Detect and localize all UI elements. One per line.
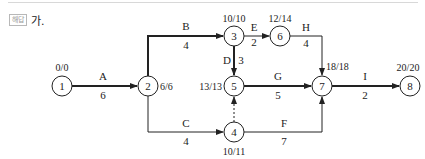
- activity-g-name: G: [274, 70, 282, 82]
- activity-d: D 3: [223, 46, 244, 75]
- node-4: 4 10/11: [223, 122, 245, 157]
- node-4-label: 4: [231, 126, 237, 138]
- activity-a: A 6: [72, 70, 137, 101]
- node-8-label: 8: [407, 80, 413, 92]
- node-6-label: 6: [277, 30, 283, 42]
- network-diagram: A 6 B 4 C 4 D 3 E 2 H 4 G 5 F 7: [0, 0, 425, 159]
- activity-e-name: E: [251, 21, 258, 33]
- activity-c-duration: 4: [183, 135, 189, 147]
- node-1-label: 1: [59, 80, 65, 92]
- activity-c-name: C: [182, 117, 189, 129]
- node-2-label: 2: [145, 80, 151, 92]
- activity-f-duration: 7: [281, 135, 287, 147]
- node-1: 1 0/0: [52, 62, 72, 96]
- activity-i-duration: 2: [362, 89, 368, 101]
- activity-g-duration: 5: [275, 89, 281, 101]
- node-3: 3 10/10: [223, 13, 246, 46]
- activity-b-name: B: [182, 20, 189, 32]
- activity-f-name: F: [281, 117, 287, 129]
- activity-f: F 7: [244, 97, 322, 147]
- node-2: 2 6/6: [138, 76, 173, 96]
- activity-a-name: A: [99, 70, 107, 82]
- activity-i-name: I: [363, 70, 367, 82]
- activity-h-duration: 4: [303, 37, 309, 49]
- activity-a-duration: 6: [100, 89, 106, 101]
- node-3-label: 3: [231, 30, 237, 42]
- node-7: 7 18/18: [312, 61, 349, 96]
- node-7-times: 18/18: [326, 61, 349, 72]
- node-5: 5 13/13: [199, 76, 244, 96]
- activity-e: E 2: [244, 21, 269, 48]
- activity-i: I 2: [332, 70, 399, 101]
- activity-d-duration: 3: [238, 54, 244, 66]
- activity-g: G 5: [244, 70, 311, 101]
- activity-e-duration: 2: [251, 36, 257, 48]
- node-3-times: 10/10: [223, 13, 246, 24]
- node-8: 8 20/20: [397, 62, 420, 96]
- activity-c: C 4: [148, 96, 223, 147]
- activity-h: H 4: [290, 21, 322, 75]
- node-2-times: 6/6: [160, 81, 173, 92]
- node-6: 6 12/14: [269, 13, 292, 46]
- node-7-label: 7: [319, 80, 325, 92]
- node-8-times: 20/20: [397, 62, 420, 73]
- node-6-times: 12/14: [269, 13, 292, 24]
- node-1-times: 0/0: [56, 62, 69, 73]
- activity-d-name: D: [223, 54, 231, 66]
- node-5-label: 5: [231, 80, 237, 92]
- activity-h-name: H: [302, 21, 310, 33]
- node-4-times: 10/11: [223, 146, 245, 157]
- node-5-times: 13/13: [199, 81, 222, 92]
- activity-b: B 4: [148, 20, 223, 76]
- activity-b-duration: 4: [183, 39, 189, 51]
